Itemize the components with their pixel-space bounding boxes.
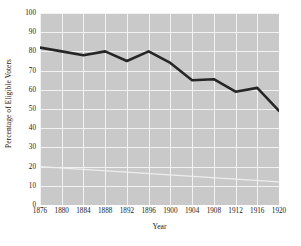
y-axis-title-text: Percentage of Eligible Voters	[5, 58, 14, 147]
x-tick-label: 1920	[272, 207, 286, 215]
chart-figure: Percentage of Eligible Voters 0102030405…	[0, 0, 301, 246]
y-tick-label: 70	[29, 67, 36, 75]
x-tick-label: 1888	[98, 207, 112, 215]
y-tick-label: 90	[29, 28, 36, 36]
x-tick-label: 1896	[141, 207, 155, 215]
x-tick-label: 1880	[55, 207, 69, 215]
y-tick-label: 80	[29, 47, 36, 55]
y-tick-label: 100	[25, 9, 36, 17]
plot-svg	[40, 13, 279, 205]
x-axis-tick-labels: 1876188018841888189218961900190419081912…	[40, 207, 279, 221]
x-tick-label: 1912	[228, 207, 242, 215]
plot-panel	[40, 13, 279, 205]
y-tick-label: 50	[29, 105, 36, 113]
y-tick-label: 40	[29, 124, 36, 132]
y-tick-label: 60	[29, 86, 36, 94]
x-axis-title: Year	[40, 222, 279, 231]
x-tick-label: 1916	[250, 207, 264, 215]
x-tick-label: 1900	[163, 207, 177, 215]
y-tick-label: 10	[29, 182, 36, 190]
faint-diagonal-artifact	[40, 167, 279, 182]
y-tick-label: 20	[29, 163, 36, 171]
x-tick-label: 1876	[33, 207, 47, 215]
data-series-line	[40, 48, 279, 111]
x-tick-label: 1892	[120, 207, 134, 215]
y-tick-label: 30	[29, 143, 36, 151]
y-axis-tick-labels: 0102030405060708090100	[16, 0, 38, 206]
x-tick-label: 1884	[76, 207, 90, 215]
x-tick-label: 1904	[185, 207, 199, 215]
x-tick-label: 1908	[207, 207, 221, 215]
